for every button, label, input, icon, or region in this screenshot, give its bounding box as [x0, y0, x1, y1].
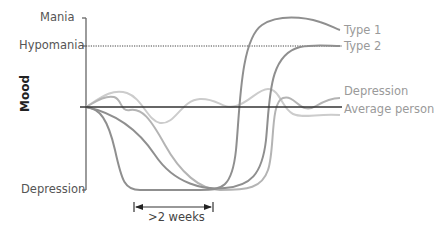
arrow-head-right	[204, 204, 212, 210]
legend-average: Average person	[344, 104, 434, 116]
ytick-depression: Depression	[21, 184, 85, 196]
legend-type2: Type 2	[344, 41, 381, 53]
ytick-hypomania: Hypomania	[19, 40, 85, 52]
legend-depression: Depression	[344, 86, 408, 98]
y-axis-label: Mood	[18, 75, 32, 112]
depression-curve	[86, 97, 340, 190]
type1-curve	[86, 18, 340, 191]
duration-label: >2 weeks	[148, 212, 205, 224]
legend-type1: Type 1	[344, 25, 381, 37]
ytick-mania: Mania	[40, 12, 75, 24]
arrow-head-left	[135, 204, 143, 210]
